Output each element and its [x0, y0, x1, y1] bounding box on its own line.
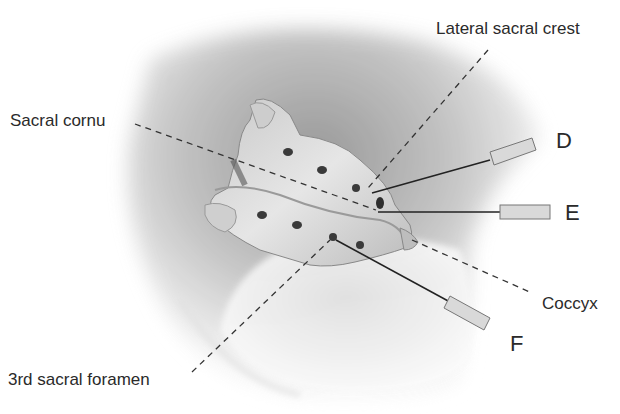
needle-label-d: D [556, 130, 572, 152]
foramen [329, 233, 337, 241]
foramen [257, 211, 267, 219]
illustration [0, 0, 620, 414]
label-coccyx: Coccyx [542, 295, 598, 312]
needle-label-f: F [510, 333, 523, 355]
label-lateral-sacral-crest: Lateral sacral crest [436, 20, 580, 37]
foramen [292, 221, 302, 229]
foramen [317, 166, 327, 174]
label-third-sacral-foramen: 3rd sacral foramen [8, 371, 150, 388]
foramen [376, 197, 384, 209]
foramen [352, 184, 360, 192]
foramen [283, 148, 293, 156]
needle-label-e: E [565, 202, 580, 224]
anatomy-figure: Lateral sacral crest Sacral cornu Coccyx… [0, 0, 620, 414]
label-sacral-cornu: Sacral cornu [10, 112, 105, 129]
foramen [356, 241, 364, 249]
